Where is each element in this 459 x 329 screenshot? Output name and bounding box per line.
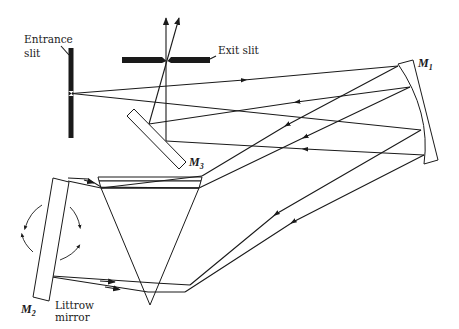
monochromator-diagram: Entrance slit Exit slit M3 M1 <box>0 0 459 329</box>
prism <box>98 177 202 305</box>
ray-m1-to-m3-lower <box>166 141 424 155</box>
littrow-label-line1: Littrow <box>55 299 94 311</box>
entrance-slit-label-line1: Entrance <box>24 33 73 45</box>
entrance-slit-label-line2: slit <box>24 47 41 59</box>
m3-mirror <box>127 109 186 169</box>
exit-slit-leader <box>210 56 216 59</box>
ray-entrance-to-m1-top <box>72 66 398 94</box>
ray-m1-to-prism-2 <box>199 87 410 188</box>
ray-m1-to-prism-4 <box>185 155 424 292</box>
ray-entrance-to-m1-lower <box>72 94 421 131</box>
entrance-slit-leader <box>61 46 69 55</box>
m2-label: M2 <box>20 302 36 318</box>
exit-slit-label: Exit slit <box>218 44 260 56</box>
m3-label: M3 <box>188 155 204 171</box>
ray-m2-bottom-arrow-in <box>100 281 115 282</box>
littrow-label-line2: mirror <box>55 311 91 323</box>
exit-ray-slanted <box>149 18 179 124</box>
m1-mirror <box>398 60 438 164</box>
m2-littrow-mirror <box>33 178 69 301</box>
ray-m1-to-prism-1 <box>202 66 398 176</box>
m1-label: M1 <box>417 56 433 72</box>
